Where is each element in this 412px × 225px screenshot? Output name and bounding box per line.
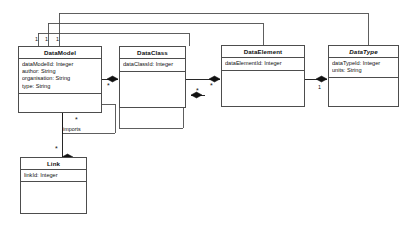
uml-attribute: type: String	[22, 83, 98, 90]
multiplicity-label-dataelement-owner: 1	[45, 36, 48, 42]
uml-class-dataelement[interactable]: DataElement dataElementId: Integer	[221, 45, 305, 107]
uml-attribute: dataElementId: Integer	[225, 60, 301, 67]
uml-attributes-link: linkId: Integer	[21, 170, 86, 182]
edge-label-imports: imports	[63, 126, 81, 132]
uml-class-name-datamodel: DataModel	[19, 47, 101, 59]
uml-class-link[interactable]: Link linkId: Integer	[20, 157, 87, 214]
uml-attributes-dataclass: dataClassId: Integer	[120, 59, 185, 72]
edge-datamodel-dataclass-ownership	[38, 33, 189, 46]
uml-attributes-datamodel: dataModelId: Integer author: String orga…	[19, 59, 101, 94]
uml-class-name-dataclass: DataClass	[120, 47, 185, 59]
multiplicity-label-dataclass-many: *	[107, 83, 110, 88]
uml-attributes-dataelement: dataElementId: Integer	[222, 58, 304, 71]
multiplicity-label-datatype-owner: 1	[56, 36, 59, 42]
uml-class-diagram-canvas: DataModel dataModelId: Integer author: S…	[0, 0, 412, 225]
multiplicity-label-dataclass-self-many: *	[196, 88, 199, 93]
uml-class-datamodel[interactable]: DataModel dataModelId: Integer author: S…	[18, 46, 102, 113]
uml-attribute: dataModelId: Integer	[22, 61, 98, 68]
uml-attribute: units: String	[332, 67, 395, 74]
uml-class-dataclass[interactable]: DataClass dataClassId: Integer	[119, 46, 186, 108]
multiplicity-label-datatype-one: 1	[318, 84, 321, 90]
edge-datamodel-datatype-ownership	[59, 13, 368, 46]
uml-attribute: dataClassId: Integer	[123, 61, 182, 68]
uml-attributes-datatype: dataTypeId: Integer units: String	[329, 58, 398, 78]
multiplicity-label-dataclass-owner: 1	[35, 36, 38, 42]
uml-class-name-dataelement: DataElement	[222, 46, 304, 58]
multiplicity-label-dataelement-many: *	[210, 83, 213, 88]
edge-datamodel-dataelement-ownership	[48, 23, 263, 46]
uml-attribute: organisation: String	[22, 75, 98, 82]
uml-class-name-link: Link	[21, 158, 86, 170]
uml-class-datatype[interactable]: DataType dataTypeId: Integer units: Stri…	[328, 45, 399, 107]
uml-attribute: linkId: Integer	[24, 172, 83, 179]
uml-class-name-datatype: DataType	[329, 46, 398, 58]
uml-attribute: dataTypeId: Integer	[332, 60, 395, 67]
multiplicity-label-link-many: *	[55, 146, 58, 151]
multiplicity-label-imports-many: *	[75, 117, 78, 122]
uml-attribute: author: String	[22, 68, 98, 75]
